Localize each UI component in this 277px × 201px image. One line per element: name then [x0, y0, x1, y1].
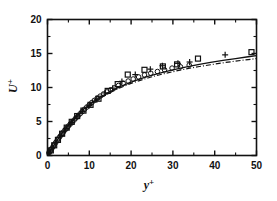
y-axis-tick-labels: 05101520 — [30, 14, 42, 161]
x-tick-label: 20 — [126, 160, 138, 171]
plot-frame — [48, 20, 257, 156]
plot-frame-box — [48, 20, 257, 156]
square-markers — [48, 50, 254, 153]
x-axis-major-ticks — [48, 20, 257, 156]
velocity-profile-chart: 01020304050 05101520 y+ U+ — [0, 0, 277, 201]
data-markers-group — [47, 50, 254, 156]
data-point-plus — [222, 52, 228, 58]
data-point-circle — [136, 75, 141, 80]
fit-curves-group — [48, 56, 257, 156]
x-tick-label: 10 — [84, 160, 96, 171]
x-tick-label: 0 — [45, 160, 51, 171]
plus-markers — [47, 52, 229, 155]
y-axis-minor-ticks — [48, 37, 257, 139]
data-point-square — [195, 56, 200, 61]
x-axis-tick-labels: 01020304050 — [45, 160, 263, 171]
y-tick-label: 10 — [30, 82, 42, 93]
data-point-square — [142, 67, 147, 72]
y-tick-label: 20 — [30, 14, 42, 25]
y-axis-major-ticks — [48, 20, 257, 156]
y-tick-label: 15 — [30, 48, 42, 59]
x-tick-label: 40 — [209, 160, 221, 171]
data-point-circle — [126, 79, 131, 84]
y-tick-label: 0 — [36, 150, 42, 161]
svg-text:y+: y+ — [142, 177, 154, 192]
x-tick-label: 50 — [251, 160, 263, 171]
y-axis-title: U+ — [5, 79, 20, 93]
data-point-circle — [142, 73, 147, 78]
x-axis-title-superscript: + — [149, 177, 154, 187]
x-axis-minor-ticks — [68, 20, 235, 156]
y-axis-title-superscript: + — [5, 79, 15, 84]
x-axis-title: y+ — [142, 177, 154, 192]
x-tick-label: 30 — [167, 160, 179, 171]
data-point-square — [175, 62, 180, 67]
svg-text:U+: U+ — [5, 79, 20, 93]
solid-fit-curve — [48, 56, 257, 156]
data-point-square — [125, 72, 130, 77]
y-tick-label: 5 — [36, 116, 42, 127]
dashdot-fit-curve — [48, 59, 257, 156]
circle-markers — [47, 63, 192, 156]
figure-container: 01020304050 05101520 y+ U+ — [0, 0, 277, 201]
